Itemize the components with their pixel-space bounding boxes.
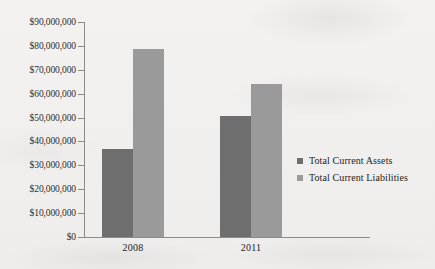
bar-assets-2008 [102,149,133,237]
plot-area [85,22,370,237]
y-axis-tick [78,189,85,190]
legend-label-liabilities: Total Current Liabilities [309,172,408,183]
chart-legend: Total Current Assets Total Current Liabi… [297,153,408,187]
bar-liabilities-2011 [251,84,282,237]
y-axis-tick-label: $70,000,000 [2,65,76,75]
chart-page: $90,000,000$80,000,000$70,000,000$60,000… [0,0,435,269]
y-axis-tick [78,94,85,95]
bar-liabilities-2008 [133,49,164,237]
y-axis-tick [78,141,85,142]
x-axis-label-2011: 2011 [211,242,291,253]
y-axis-tick-label: $30,000,000 [2,160,76,170]
y-axis-tick [78,70,85,71]
x-axis-line [84,237,370,238]
legend-item-liabilities: Total Current Liabilities [297,170,408,185]
y-axis-tick [78,237,85,238]
y-axis-tick-label: $20,000,000 [2,184,76,194]
y-axis-tick [78,165,85,166]
y-axis-tick-label: $50,000,000 [2,113,76,123]
legend-swatch-icon-liabilities [297,175,303,181]
y-axis-tick-label: $60,000,000 [2,89,76,99]
legend-item-assets: Total Current Assets [297,153,408,168]
legend-label-assets: Total Current Assets [309,155,393,166]
y-axis-tick-label: $80,000,000 [2,41,76,51]
y-axis-tick [78,46,85,47]
y-axis-tick-label: $10,000,000 [2,208,76,218]
y-axis-tick [78,118,85,119]
y-axis-tick [78,22,85,23]
legend-swatch-icon-assets [297,158,303,164]
bar-chart: $90,000,000$80,000,000$70,000,000$60,000… [0,0,435,269]
y-axis-tick-label: $40,000,000 [2,136,76,146]
y-axis-tick-label: $90,000,000 [2,17,76,27]
x-axis-label-2008: 2008 [93,242,173,253]
y-axis-tick [78,213,85,214]
y-axis-tick-label: $0 [2,232,76,242]
bar-assets-2011 [220,116,251,237]
